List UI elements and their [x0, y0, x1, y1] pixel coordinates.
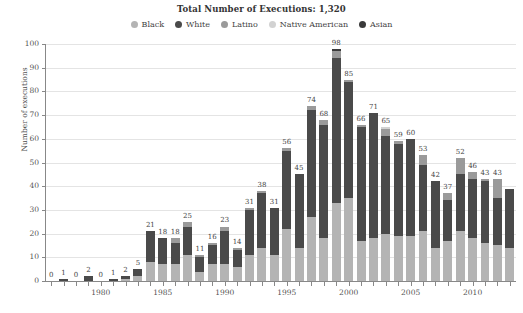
bar-segment-white [171, 243, 180, 264]
bar-segment-black [406, 236, 415, 281]
x-tick-mark [76, 282, 77, 286]
bar-2004[interactable] [394, 44, 403, 281]
y-tick-label: 90 [21, 64, 39, 72]
bar-1979[interactable] [84, 44, 93, 281]
bar-1981[interactable] [109, 44, 118, 281]
bar-1999[interactable] [332, 44, 341, 281]
x-tick-label: 1985 [145, 289, 181, 297]
x-tick-mark [150, 282, 151, 286]
x-tick-mark [435, 282, 436, 286]
bar-segment-black [357, 241, 366, 281]
bar-segment-white [307, 110, 316, 217]
bar-segment-white [394, 144, 403, 236]
bar-2012[interactable] [493, 44, 502, 281]
bar-segment-black [468, 238, 477, 281]
bar-segment-latino [183, 222, 192, 227]
bar-2008[interactable] [443, 44, 452, 281]
bar-segment-white [456, 174, 465, 231]
y-tick-label: 100 [21, 40, 39, 48]
bar-2007[interactable] [431, 44, 440, 281]
bar-1983[interactable] [133, 44, 142, 281]
bar-1989[interactable] [208, 44, 217, 281]
bar-1996[interactable] [295, 44, 304, 281]
bar-segment-white [295, 174, 304, 247]
bar-1980[interactable] [96, 44, 105, 281]
x-tick-label: 1980 [83, 289, 119, 297]
bar-segment-white [406, 139, 415, 236]
bar-2002[interactable] [369, 44, 378, 281]
x-tick-mark [299, 282, 300, 286]
bar-1993[interactable] [257, 44, 266, 281]
bar-segment-black [381, 234, 390, 281]
bar-segment-white [357, 127, 366, 241]
bar-segment-black [431, 248, 440, 281]
bar-segment-black [481, 243, 490, 281]
bar-2011[interactable] [481, 44, 490, 281]
bar-segment-latino [257, 191, 266, 193]
bar-segment-black [133, 276, 142, 281]
bar-1977[interactable] [59, 44, 68, 281]
bar-1986[interactable] [171, 44, 180, 281]
bar-segment-black [307, 217, 316, 281]
bar-segment-black [121, 279, 130, 281]
bar-1985[interactable] [158, 44, 167, 281]
x-tick-mark [113, 282, 114, 286]
y-tick-label: 70 [21, 111, 39, 119]
bar-2001[interactable] [357, 44, 366, 281]
bar-segment-black [456, 231, 465, 281]
x-tick-label: 1995 [269, 289, 305, 297]
bar-segment-white [220, 231, 229, 264]
bar-1978[interactable] [72, 44, 81, 281]
bar-segment-latino [319, 120, 328, 125]
bar-1998[interactable] [319, 44, 328, 281]
x-tick-mark [262, 282, 263, 286]
bar-1982[interactable] [121, 44, 130, 281]
bar-segment-latino [394, 141, 403, 143]
bar-segment-latino [419, 155, 428, 164]
x-tick-mark [361, 282, 362, 286]
x-tick-mark [101, 282, 102, 286]
bar-1997[interactable] [307, 44, 316, 281]
bar-segment-black [443, 241, 452, 281]
x-tick-mark [250, 282, 251, 286]
plot-area: Number of executions 0102030405060708090… [0, 0, 523, 313]
y-tick-label: 10 [21, 253, 39, 261]
bar-segment-white [481, 181, 490, 243]
x-tick-mark [287, 282, 288, 286]
bar-1984[interactable] [146, 44, 155, 281]
bar-2013[interactable] [505, 44, 514, 281]
bar-segment-black [419, 231, 428, 281]
y-tick-label: 60 [21, 135, 39, 143]
y-tick-label: 0 [21, 277, 39, 285]
bar-segment-latino [171, 238, 180, 243]
x-tick-mark [225, 282, 226, 286]
x-tick-mark [237, 282, 238, 286]
bar-1976[interactable] [47, 44, 56, 281]
bar-1992[interactable] [245, 44, 254, 281]
x-tick-mark [349, 282, 350, 286]
bar-segment-white [319, 125, 328, 239]
bar-segment-white [332, 58, 341, 203]
x-tick-mark [188, 282, 189, 286]
bar-1994[interactable] [270, 44, 279, 281]
bar-segment-white [468, 179, 477, 238]
bar-segment-black [158, 264, 167, 281]
bar-segment-black [270, 255, 279, 281]
y-tick-label: 30 [21, 206, 39, 214]
bar-2005[interactable] [406, 44, 415, 281]
x-tick-mark [175, 282, 176, 286]
bar-2003[interactable] [381, 44, 390, 281]
bar-segment-black [344, 198, 353, 281]
bar-segment-black [319, 238, 328, 281]
x-tick-label: 1990 [207, 289, 243, 297]
bar-2000[interactable] [344, 44, 353, 281]
bar-segment-latino [208, 243, 217, 245]
x-axis-line [45, 281, 516, 282]
bar-2006[interactable] [419, 44, 428, 281]
bar-segment-latino [195, 255, 204, 257]
y-tick-label: 40 [21, 182, 39, 190]
x-tick-mark [411, 282, 412, 286]
bar-1995[interactable] [282, 44, 291, 281]
x-tick-mark [336, 282, 337, 286]
bar-segment-white [505, 189, 514, 248]
